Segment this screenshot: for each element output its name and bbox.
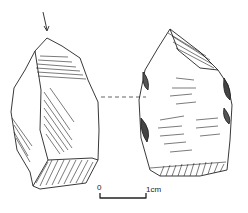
- scale-end-label: 1cm: [146, 186, 161, 194]
- right-view-outline: [139, 29, 232, 176]
- scale-start-label: 0: [97, 184, 101, 192]
- arrow-icon: [43, 12, 49, 31]
- scale-bar: [100, 193, 146, 198]
- artifact-drawing: [0, 0, 248, 213]
